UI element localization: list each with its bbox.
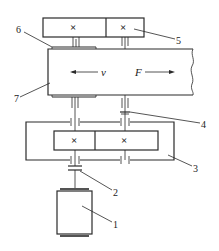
- label-6: 6: [16, 24, 21, 35]
- label-3: 3: [193, 163, 198, 174]
- label-5: 5: [176, 35, 181, 46]
- velocity-label: v: [101, 66, 106, 78]
- label-1: 1: [113, 219, 118, 230]
- label-7: 7: [14, 93, 19, 104]
- velocity-arrow: v: [70, 66, 106, 78]
- gear-mark-bottom-right: ×: [121, 134, 127, 146]
- gear-mark-bottom-left: ×: [71, 134, 77, 146]
- leader-lines: [20, 29, 200, 222]
- gear-mark-top-right: ×: [120, 21, 126, 33]
- force-label: F: [134, 66, 142, 78]
- force-arrow: F: [134, 66, 175, 78]
- upper-gearbox: [43, 18, 144, 37]
- transmission-diagram: v F × ×: [0, 0, 219, 251]
- motor: [57, 189, 92, 236]
- coupling: [68, 166, 82, 188]
- housing: [26, 118, 174, 164]
- lower-gearbox: [54, 131, 158, 166]
- label-2: 2: [113, 187, 118, 198]
- gear-mark-top-left: ×: [70, 21, 76, 33]
- label-4: 4: [201, 119, 206, 130]
